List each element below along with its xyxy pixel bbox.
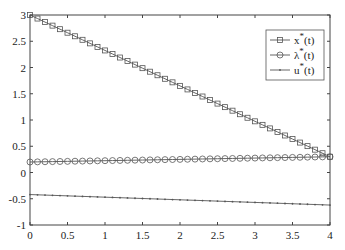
point-marker — [314, 204, 316, 206]
point-marker — [119, 197, 121, 199]
point-marker — [292, 203, 294, 205]
legend-label: x*(t) — [294, 31, 315, 47]
point-marker — [262, 202, 264, 204]
y-tick-label: 3 — [21, 9, 27, 21]
legend-label: λ*(t) — [294, 46, 315, 62]
point-marker — [104, 196, 106, 198]
point-marker — [89, 196, 91, 198]
point-marker — [269, 202, 271, 204]
point-marker — [239, 201, 241, 203]
point-marker — [217, 200, 219, 202]
point-marker — [67, 195, 69, 197]
point-marker — [307, 203, 309, 205]
point-marker — [284, 203, 286, 205]
x-tick-label: 1.5 — [136, 229, 150, 241]
x-tick-label: 3 — [252, 229, 258, 241]
x-tick-label: 4 — [327, 229, 333, 241]
point-marker — [232, 201, 234, 203]
point-marker — [277, 202, 279, 204]
point-marker — [279, 69, 281, 71]
point-marker — [172, 199, 174, 201]
point-marker — [209, 200, 211, 202]
y-tick-label: -0.5 — [9, 193, 27, 205]
point-marker — [164, 198, 166, 200]
point-marker — [127, 197, 129, 199]
point-marker — [112, 197, 114, 199]
point-marker — [247, 201, 249, 203]
point-marker — [187, 199, 189, 201]
legend-label: u*(t) — [294, 61, 315, 77]
point-marker — [44, 194, 46, 196]
point-marker — [82, 195, 84, 197]
point-marker — [52, 194, 54, 196]
point-marker — [97, 196, 99, 198]
point-marker — [59, 195, 61, 197]
line-chart: 00.511.522.533.54 -1-0.500.511.522.53 x*… — [0, 0, 345, 250]
point-marker — [322, 204, 324, 206]
y-tick-label: 2.5 — [12, 35, 26, 47]
point-marker — [74, 195, 76, 197]
y-tick-label: 1 — [21, 114, 27, 126]
x-tick-label: 2 — [177, 229, 183, 241]
y-tick-label: 0 — [21, 167, 27, 179]
point-marker — [142, 198, 144, 200]
x-tick-label: 2.5 — [211, 229, 225, 241]
point-marker — [179, 199, 181, 201]
point-marker — [299, 203, 301, 205]
point-marker — [37, 194, 39, 196]
y-tick-label: 0.5 — [12, 140, 26, 152]
legend: x*(t)λ*(t)u*(t) — [266, 30, 324, 80]
point-marker — [194, 199, 196, 201]
x-tick-label: 3.5 — [286, 229, 300, 241]
y-tick-label: 2 — [21, 62, 27, 74]
point-marker — [254, 202, 256, 204]
point-marker — [157, 198, 159, 200]
point-marker — [29, 194, 31, 196]
y-tick-label: 1.5 — [12, 88, 26, 100]
point-marker — [202, 200, 204, 202]
point-marker — [329, 204, 331, 206]
point-marker — [134, 197, 136, 199]
y-tick-label: -1 — [17, 219, 26, 231]
point-marker — [224, 200, 226, 202]
x-tick-label: 1 — [102, 229, 108, 241]
x-tick-label: 0.5 — [61, 229, 75, 241]
x-tick-label: 0 — [27, 229, 33, 241]
point-marker — [149, 198, 151, 200]
